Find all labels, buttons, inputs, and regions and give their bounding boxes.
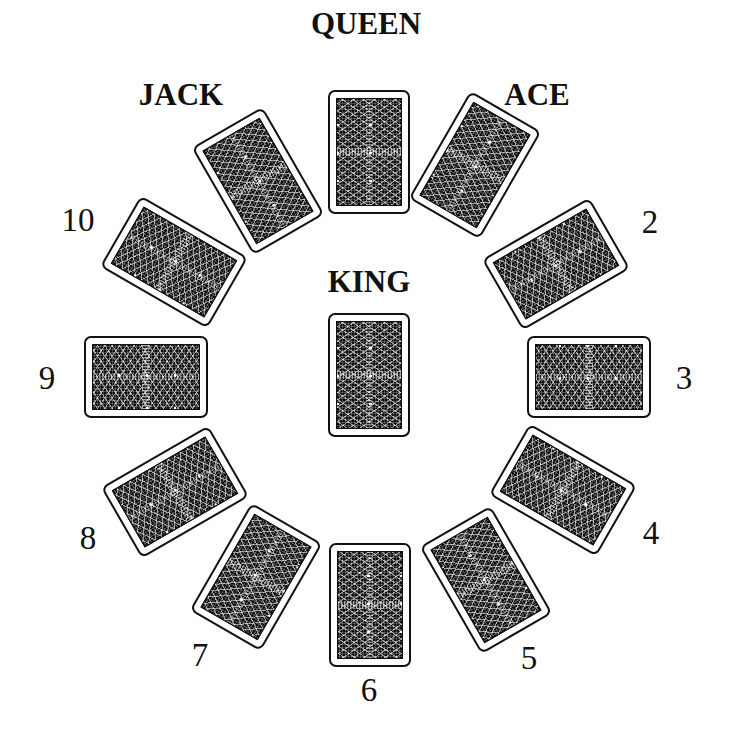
card-back-pattern <box>200 514 311 641</box>
card-seven <box>189 503 322 651</box>
position-label-ten: 10 <box>62 202 95 239</box>
position-label-three: 3 <box>676 360 693 397</box>
card-back-pattern <box>500 434 627 545</box>
card-ten <box>100 195 248 328</box>
card-back-pattern <box>112 436 239 547</box>
position-label-eight: 8 <box>80 520 97 557</box>
position-label-queen: QUEEN <box>311 6 421 42</box>
card-back-pattern <box>111 206 238 317</box>
card-jack <box>191 107 324 255</box>
card-back-pattern <box>430 517 541 644</box>
position-label-two: 2 <box>642 204 659 241</box>
card-back-pattern <box>92 344 200 410</box>
card-ace <box>408 91 541 239</box>
card-back-pattern <box>535 344 643 410</box>
card-five <box>419 506 552 654</box>
position-label-king: KING <box>328 264 411 300</box>
card-six <box>329 543 411 667</box>
card-four <box>489 423 637 556</box>
card-back-pattern <box>337 551 403 659</box>
card-back-pattern <box>336 321 402 429</box>
card-spread-diagram: QUEENACE2345678910JACKKING <box>0 0 729 740</box>
card-back-pattern <box>336 98 402 206</box>
card-queen <box>328 90 410 214</box>
position-label-four: 4 <box>643 515 660 552</box>
position-label-nine: 9 <box>39 360 56 397</box>
position-label-ace: ACE <box>504 77 569 113</box>
card-back-pattern <box>419 102 530 229</box>
card-three <box>527 336 651 418</box>
card-king <box>328 313 410 437</box>
position-label-seven: 7 <box>192 637 209 674</box>
card-nine <box>84 336 208 418</box>
card-back-pattern <box>202 118 313 245</box>
position-label-six: 6 <box>361 672 378 709</box>
position-label-five: 5 <box>521 640 538 677</box>
card-back-pattern <box>493 208 620 319</box>
position-label-jack: JACK <box>139 77 223 113</box>
card-eight <box>101 425 249 558</box>
card-two <box>482 197 630 330</box>
